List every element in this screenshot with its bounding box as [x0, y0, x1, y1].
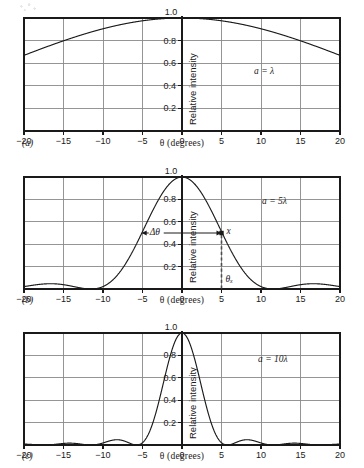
- panel-c-plot: [0, 312, 364, 468]
- x-tick-label: −20: [16, 136, 31, 146]
- x-tick-label: −10: [95, 450, 110, 460]
- x-tick-label: 0: [179, 136, 184, 146]
- x-tick-label: −5: [137, 294, 147, 304]
- y-tick-label: 1.0: [165, 166, 178, 176]
- point-x-annotation: x: [227, 226, 231, 236]
- x-tick-label: 10: [256, 136, 266, 146]
- y-tick-label: 0.6: [163, 373, 176, 383]
- x-tick-label: 10: [256, 450, 266, 460]
- x-tick-label: 15: [295, 294, 305, 304]
- x-tick-label: 5: [219, 136, 224, 146]
- panel-c: Relative intensity a = 10λ θ (degrees) (…: [0, 312, 364, 468]
- x-tick-label: −5: [137, 136, 147, 146]
- y-tick-label: 0.4: [163, 81, 176, 91]
- x-tick-label: −5: [137, 450, 147, 460]
- x-tick-label: 10: [256, 294, 266, 304]
- x-tick-label: 5: [219, 450, 224, 460]
- x-tick-label: 20: [335, 450, 345, 460]
- y-tick-label: 0.2: [163, 418, 176, 428]
- y-tick-label: 0.8: [163, 194, 176, 204]
- panel-b-y-axis-label: Relative intensity: [187, 211, 198, 283]
- panel-a-aperture-annotation: a = λ: [254, 66, 274, 76]
- y-tick-label: 0.2: [163, 103, 176, 113]
- x-tick-label: 15: [295, 450, 305, 460]
- diffraction-intensity-figure: Relative intensity a = λ θ (degrees) (a)…: [0, 0, 364, 468]
- x-tick-label: −15: [56, 136, 71, 146]
- y-tick-label: 1.0: [165, 7, 178, 17]
- x-tick-label: −10: [95, 136, 110, 146]
- theta-x-annotation: θₓ: [226, 274, 233, 284]
- panel-a: Relative intensity a = λ θ (degrees) (a)…: [0, 0, 364, 155]
- x-tick-label: 5: [219, 294, 224, 304]
- panel-b-plot: [0, 155, 364, 312]
- y-tick-label: 0.2: [163, 262, 176, 272]
- x-tick-label: −15: [56, 294, 71, 304]
- panel-b: Relative intensity a = 5λ Δθ x θₓ θ (deg…: [0, 155, 364, 312]
- y-tick-label: 0.4: [163, 395, 176, 405]
- delta-theta-annotation: Δθ: [150, 227, 160, 237]
- y-tick-label: 0.6: [163, 58, 176, 68]
- x-tick-label: 15: [295, 136, 305, 146]
- y-tick-label: 0.8: [163, 350, 176, 360]
- x-tick-label: 20: [335, 136, 345, 146]
- panel-a-y-axis-label: Relative intensity: [187, 53, 198, 125]
- x-tick-label: −10: [95, 294, 110, 304]
- x-tick-label: −20: [16, 450, 31, 460]
- x-tick-label: 0: [179, 294, 184, 304]
- panel-a-plot: [0, 0, 364, 155]
- y-tick-label: 1.0: [165, 322, 178, 332]
- y-tick-label: 0.4: [163, 239, 176, 249]
- panel-b-aperture-annotation: a = 5λ: [262, 196, 287, 206]
- panel-c-aperture-annotation: a = 10λ: [258, 354, 288, 364]
- panel-c-y-axis-label: Relative intensity: [187, 367, 198, 439]
- x-tick-label: −15: [56, 450, 71, 460]
- x-tick-label: 0: [179, 450, 184, 460]
- y-tick-label: 0.8: [163, 36, 176, 46]
- x-tick-label: −20: [16, 294, 31, 304]
- y-tick-label: 0.6: [163, 217, 176, 227]
- x-tick-label: 20: [335, 294, 345, 304]
